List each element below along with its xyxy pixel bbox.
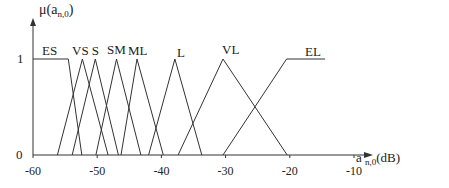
x-axis-label: a n,0(dB) [356,150,400,167]
set-label-el: EL [305,44,321,60]
membership-l [149,59,202,155]
membership-el [223,59,325,155]
membership-es [33,59,82,155]
membership-vs [57,59,108,155]
membership-ml [121,59,163,155]
set-label-ml: ML [128,43,148,59]
x-tick-label: -20 [282,164,298,179]
y-axis-label: μ(an,0) [39,2,73,19]
x-tick-label: -10 [346,164,362,179]
set-label-vl: VL [222,42,239,58]
set-label-vs-s: VS S [72,43,99,59]
y-tick-1: 1 [17,51,24,67]
x-tick-label: -60 [25,164,41,179]
set-label-sm: SM [107,42,126,58]
set-label-es: ES [42,43,57,59]
x-tick-label: -50 [89,164,105,179]
x-tick-label: -40 [153,164,169,179]
x-tick-label: -30 [218,164,234,179]
y-tick-0: 0 [16,147,23,163]
y-axis-arrow-icon [30,18,36,26]
set-label-l: L [177,45,185,61]
